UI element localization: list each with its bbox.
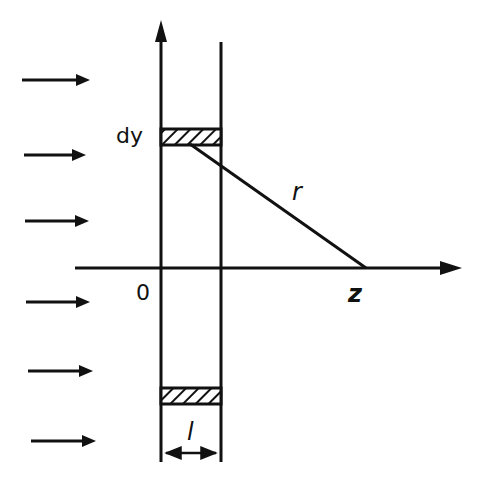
hatched-strip-bottom [161, 388, 221, 404]
arrow-icon [22, 74, 90, 86]
label-r: r [292, 178, 304, 206]
incident-arrows [22, 74, 96, 447]
label-z: z [347, 280, 363, 308]
label-l: l [187, 418, 194, 446]
y-axis-arrowhead-icon [155, 20, 167, 42]
arrow-icon [25, 215, 89, 227]
hatched-strip-top [161, 129, 221, 145]
label-dy: dy [116, 123, 143, 148]
arrow-icon [24, 149, 86, 161]
diagram-canvas: dy r 0 z l [0, 0, 483, 485]
arrow-icon [28, 365, 93, 377]
arrow-icon [31, 435, 96, 447]
label-origin: 0 [136, 280, 150, 305]
z-axis-arrowhead-icon [440, 261, 462, 275]
arrow-icon [26, 296, 90, 308]
r-line [190, 144, 366, 268]
